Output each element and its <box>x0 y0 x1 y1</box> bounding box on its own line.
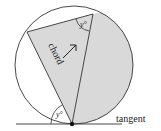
shaded-segment <box>27 0 160 131</box>
tangent-point <box>70 122 74 126</box>
angle-label-top: y° <box>79 20 88 29</box>
alternate-segment-diagram: chord y° y° tangent <box>0 0 161 131</box>
tangent-label: tangent <box>116 113 146 124</box>
angle-label-bottom: y° <box>55 110 64 119</box>
